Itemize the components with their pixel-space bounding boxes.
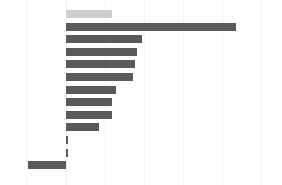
bar-3[interactable] <box>66 48 137 56</box>
bar-2[interactable] <box>66 35 142 43</box>
bar-11[interactable] <box>66 149 68 157</box>
bar-0[interactable] <box>66 10 112 18</box>
bar-4[interactable] <box>66 60 135 68</box>
bar-chart <box>0 0 282 185</box>
bar-9[interactable] <box>66 123 99 131</box>
plot-area <box>0 0 282 185</box>
gridline-0 <box>27 0 28 185</box>
bar-7[interactable] <box>66 98 112 106</box>
bar-6[interactable] <box>66 86 116 94</box>
bar-5[interactable] <box>66 73 133 81</box>
bar-8[interactable] <box>66 111 112 119</box>
gridline-6 <box>261 0 262 185</box>
bar-10[interactable] <box>66 136 68 144</box>
bar-1[interactable] <box>66 23 236 31</box>
bar-12[interactable] <box>28 161 66 169</box>
